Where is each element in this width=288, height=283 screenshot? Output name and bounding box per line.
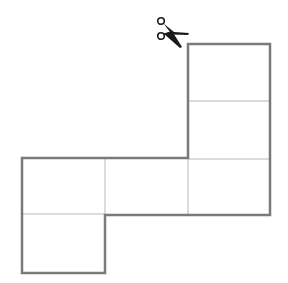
scissors-handle-bottom	[158, 33, 165, 40]
cube-net-diagram	[0, 0, 288, 283]
scissors-icon	[158, 18, 189, 48]
scissors-handle-top	[158, 18, 165, 25]
